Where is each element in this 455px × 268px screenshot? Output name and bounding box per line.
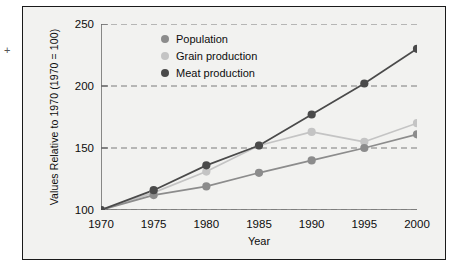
y-axis-tick-label: 250 xyxy=(75,18,94,30)
y-axis-label: Values Relative to 1970 (1970 = 100) xyxy=(48,22,60,212)
legend-marker-icon xyxy=(161,52,169,60)
y-axis-tick-label: 100 xyxy=(75,204,94,216)
legend-item-meat-production: Meat production xyxy=(161,64,257,81)
x-axis-tick-label: 1995 xyxy=(352,218,378,230)
x-axis-tick-label: 1980 xyxy=(194,218,220,230)
legend-marker-icon xyxy=(161,69,169,77)
legend-item-grain-production: Grain production xyxy=(161,47,257,64)
corner-registration-mark: + xyxy=(4,44,10,56)
legend-label: Population xyxy=(176,33,228,45)
legend-label: Grain production xyxy=(176,50,257,62)
chart-canvas xyxy=(101,24,417,210)
legend-marker-icon xyxy=(161,35,169,43)
x-axis-tick-label: 1985 xyxy=(246,218,272,230)
legend-item-population: Population xyxy=(161,30,257,47)
x-axis-tick-label: 1970 xyxy=(88,218,114,230)
y-axis-tick-label: 150 xyxy=(75,142,94,154)
chart-legend: Population Grain production Meat product… xyxy=(161,30,257,81)
x-axis-tick-label: 1975 xyxy=(141,218,167,230)
legend-label: Meat production xyxy=(176,67,255,79)
x-axis-tick-label: 2000 xyxy=(404,218,430,230)
y-axis-tick-label: 200 xyxy=(75,80,94,92)
chart-figure: Values Relative to 1970 (1970 = 100) 100… xyxy=(22,6,446,260)
plot-area: 1001502002501970197519801985199019952000 xyxy=(101,24,417,210)
x-axis-tick-label: 1990 xyxy=(299,218,325,230)
x-axis-label: Year xyxy=(101,235,417,247)
